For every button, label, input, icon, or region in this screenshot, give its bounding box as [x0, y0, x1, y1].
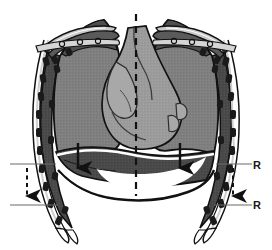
label-r-lower: R [253, 200, 261, 211]
thorax-diagram-figure: R R [0, 0, 272, 250]
rib-tips [56, 228, 216, 244]
label-r-upper: R [253, 160, 261, 171]
thorax-diagram-svg [0, 0, 272, 250]
